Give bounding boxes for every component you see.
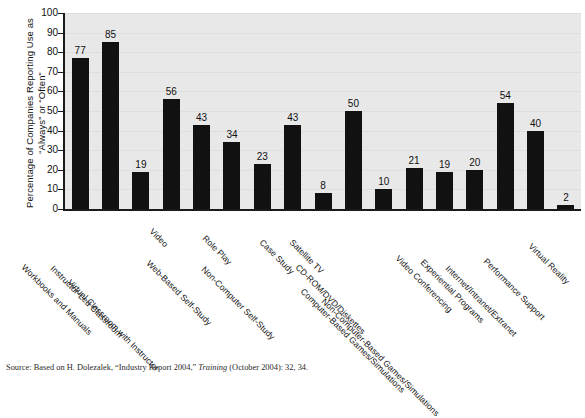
bar-slot: 23 (247, 13, 277, 209)
bar-value-label: 2 (563, 192, 569, 203)
bar[interactable]: 54 (497, 103, 514, 209)
bar-value-label: 8 (320, 180, 326, 191)
bar-value-label: 40 (530, 118, 541, 129)
x-axis-label: Non-Computer Self-Study (200, 265, 277, 342)
y-tick-label-70: 70 (30, 67, 58, 77)
bar-slot: 19 (429, 13, 459, 209)
bar-value-label: 19 (135, 159, 146, 170)
y-tick-label-30: 30 (30, 145, 58, 155)
tickmark-80 (58, 52, 64, 53)
bar-value-label: 34 (226, 129, 237, 140)
bar-slot: 10 (369, 13, 399, 209)
plot-area: 77851956433423438501021192054402 (63, 13, 581, 211)
bar[interactable]: 40 (527, 131, 544, 209)
tickmark-70 (58, 72, 64, 73)
y-axis-tick-labels: 0102030405060708090100 (30, 0, 58, 220)
bar[interactable]: 34 (223, 142, 240, 209)
tickmark-30 (58, 150, 64, 151)
bar-slot: 43 (186, 13, 216, 209)
source-prefix: Source: Based on H. Dolezalek, “Industry… (6, 363, 198, 372)
bar-value-label: 20 (469, 157, 480, 168)
bar-slot: 85 (95, 13, 125, 209)
bar-slot: 21 (399, 13, 429, 209)
bar[interactable]: 43 (284, 125, 301, 209)
y-axis-title-container: Percentage of Companies Reporting Use as… (0, 0, 26, 230)
bar-slot: 34 (217, 13, 247, 209)
bar-slot: 20 (460, 13, 490, 209)
bar-slot: 54 (490, 13, 520, 209)
bar-value-label: 10 (378, 176, 389, 187)
x-axis-category-labels: Workbooks and ManualsInstructor-Led Clas… (63, 211, 579, 351)
tickmark-100 (58, 13, 64, 14)
bar[interactable]: 85 (102, 42, 119, 209)
tickmark-20 (58, 170, 64, 171)
bar[interactable]: 50 (345, 111, 362, 209)
y-tick-label-0: 0 (30, 204, 58, 214)
y-tick-label-80: 80 (30, 47, 58, 57)
bar[interactable]: 43 (193, 125, 210, 209)
tickmark-40 (58, 131, 64, 132)
tickmark-10 (58, 189, 64, 190)
bar-slot: 8 (308, 13, 338, 209)
source-note: Source: Based on H. Dolezalek, “Industry… (6, 363, 308, 373)
tickmark-0 (58, 209, 64, 210)
bar-value-label: 54 (500, 90, 511, 101)
bar-slot: 50 (338, 13, 368, 209)
x-axis-label: Video (147, 227, 169, 249)
bar[interactable]: 8 (315, 193, 332, 209)
y-tick-label-50: 50 (30, 106, 58, 116)
bar-value-label: 23 (257, 151, 268, 162)
bar[interactable]: 23 (254, 164, 271, 209)
bar[interactable]: 19 (132, 172, 149, 209)
x-axis-label: Non-Computer-Based Games/Simulations (320, 297, 441, 418)
bar-value-label: 56 (166, 86, 177, 97)
bar-value-label: 43 (196, 112, 207, 123)
y-tick-label-20: 20 (30, 165, 58, 175)
source-italic-title: Training (198, 363, 227, 372)
bar[interactable]: 2 (557, 205, 574, 209)
plot-inner: 77851956433423438501021192054402 (65, 13, 581, 209)
bars-container: 77851956433423438501021192054402 (65, 13, 581, 209)
tickmark-60 (58, 91, 64, 92)
y-tick-label-40: 40 (30, 126, 58, 136)
bar-slot: 43 (278, 13, 308, 209)
bar[interactable]: 77 (72, 58, 89, 209)
x-axis-label: Computer-Based Games/Simulations (299, 287, 407, 395)
tickmark-50 (58, 111, 64, 112)
tickmark-90 (58, 33, 64, 34)
bar-slot: 2 (551, 13, 581, 209)
bar[interactable]: 19 (436, 172, 453, 209)
x-axis-label: Role Play (200, 234, 233, 267)
bar-slot: 56 (156, 13, 186, 209)
bar[interactable]: 20 (466, 170, 483, 209)
bar-slot: 40 (520, 13, 550, 209)
bar-slot: 19 (126, 13, 156, 209)
bar-value-label: 19 (439, 159, 450, 170)
bar-value-label: 77 (75, 45, 86, 56)
y-tick-label-90: 90 (30, 28, 58, 38)
bar[interactable]: 10 (375, 189, 392, 209)
bar-slot: 77 (65, 13, 95, 209)
bar-value-label: 85 (105, 29, 116, 40)
bar[interactable]: 21 (406, 168, 423, 209)
y-tick-label-60: 60 (30, 86, 58, 96)
y-tick-label-10: 10 (30, 184, 58, 194)
bar-value-label: 50 (348, 98, 359, 109)
bar-value-label: 43 (287, 112, 298, 123)
bar[interactable]: 56 (163, 99, 180, 209)
source-suffix: (October 2004): 32, 34. (227, 363, 308, 372)
bar-value-label: 21 (409, 155, 420, 166)
y-tick-label-100: 100 (30, 8, 58, 18)
x-axis-label: Virtual Reality (526, 242, 570, 286)
